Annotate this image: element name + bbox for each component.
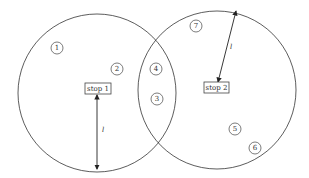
svg-text:6: 6 <box>253 144 258 152</box>
node-3: 3 <box>151 93 163 105</box>
svg-text:4: 4 <box>154 65 159 73</box>
svg-text:7: 7 <box>194 22 198 30</box>
node-2: 2 <box>111 63 123 75</box>
svg-text:2: 2 <box>115 65 119 73</box>
node-6: 6 <box>249 142 261 154</box>
node-5: 5 <box>229 123 241 135</box>
radius-arrow-stop-2 <box>218 11 236 82</box>
node-4: 4 <box>150 63 162 75</box>
coverage-diagram: l l stop 1 stop 2 1 2 4 3 7 5 6 <box>0 0 309 178</box>
svg-text:3: 3 <box>155 95 159 103</box>
stop-2-label: stop 2 <box>206 84 228 92</box>
node-1: 1 <box>51 42 63 54</box>
radius-label-stop-1: l <box>102 126 104 134</box>
radius-label-stop-2: l <box>230 43 232 51</box>
node-7: 7 <box>190 20 202 32</box>
svg-text:1: 1 <box>55 44 59 52</box>
stop-1-box: stop 1 <box>85 83 111 94</box>
svg-text:5: 5 <box>233 125 237 133</box>
stop-1-label: stop 1 <box>87 85 109 93</box>
stop-2-box: stop 2 <box>204 82 229 93</box>
